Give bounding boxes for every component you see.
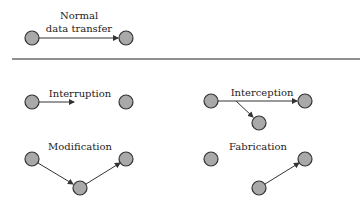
destination-node: [119, 31, 133, 45]
modification-panel: Modification: [25, 141, 133, 195]
source-node: [25, 95, 39, 109]
interception-panel: Interception: [204, 87, 312, 130]
source-node: [25, 31, 39, 45]
source-node: [204, 94, 218, 108]
source-node: [25, 152, 39, 166]
destination-node: [298, 94, 312, 108]
modification-arrow-out: [86, 163, 120, 184]
fabricator-node: [252, 181, 266, 195]
interception-label: Interception: [231, 87, 294, 98]
interceptor-node: [252, 116, 266, 130]
intercept-branch-arrow: [236, 101, 253, 117]
destination-node: [119, 152, 133, 166]
destination-node: [298, 152, 312, 166]
modification-arrow-in: [38, 163, 73, 184]
fabrication-label: Fabrication: [229, 141, 287, 152]
normal-label-line2: data transfer: [46, 23, 112, 34]
fabrication-arrow: [265, 163, 299, 184]
attack-types-diagram: Normal data transfer Interruption Interc…: [0, 0, 360, 211]
fabrication-panel: Fabrication: [204, 141, 312, 195]
normal-label-line1: Normal: [60, 10, 98, 21]
modification-label: Modification: [48, 141, 112, 152]
interruption-label: Interruption: [49, 88, 112, 99]
normal-transfer-panel: Normal data transfer: [25, 10, 133, 45]
interruption-panel: Interruption: [25, 88, 133, 109]
destination-node: [119, 95, 133, 109]
modifier-node: [73, 181, 87, 195]
source-node: [204, 152, 218, 166]
